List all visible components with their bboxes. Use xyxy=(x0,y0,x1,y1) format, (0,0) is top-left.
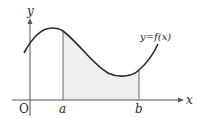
function-label: y=f(x) xyxy=(139,31,171,42)
y-axis-arrow-icon xyxy=(28,18,33,24)
area-under-curve-diagram: y x O a b y=f(x) xyxy=(0,0,197,119)
origin-label: O xyxy=(19,102,29,116)
y-axis-label: y xyxy=(26,4,34,18)
b-label: b xyxy=(135,102,143,116)
x-axis-label: x xyxy=(186,93,193,107)
x-axis-arrow-icon xyxy=(178,98,184,103)
a-label: a xyxy=(59,102,66,116)
